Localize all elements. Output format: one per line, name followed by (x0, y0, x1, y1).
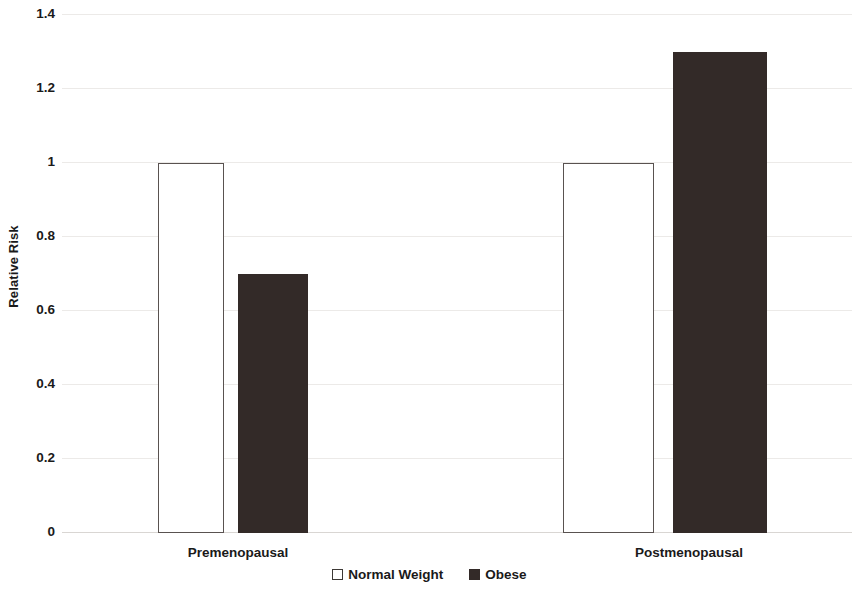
bar-postmenopausal-obese (673, 52, 767, 533)
legend-item-obese[interactable]: Obese (469, 567, 526, 582)
y-tick-label: 1.4 (7, 7, 55, 21)
y-axis-tick-labels: 1.4 1.2 1 0.8 0.6 0.4 0.2 0 (0, 14, 55, 533)
bar-premenopausal-obese (238, 274, 308, 533)
legend-label-normal-weight: Normal Weight (348, 567, 443, 582)
gridline (62, 14, 852, 15)
x-axis-category-label-premenopausal: Premenopausal (148, 545, 328, 560)
relative-risk-bar-chart: Relative Risk 1.4 1.2 1 0.8 0.6 0.4 0.2 … (0, 0, 859, 597)
y-tick-label: 0 (7, 525, 55, 539)
y-tick-label: 0.2 (7, 451, 55, 465)
legend-swatch-obese-icon (469, 569, 480, 580)
y-tick-label: 1.2 (7, 81, 55, 95)
x-axis-category-label-postmenopausal: Postmenopausal (594, 545, 784, 560)
legend-swatch-normal-weight-icon (332, 569, 343, 580)
y-tick-label: 1 (7, 155, 55, 169)
legend: Normal Weight Obese (0, 567, 859, 582)
legend-label-obese: Obese (485, 567, 526, 582)
y-tick-label: 0.6 (7, 303, 55, 317)
y-tick-label: 0.8 (7, 229, 55, 243)
legend-item-normal-weight[interactable]: Normal Weight (332, 567, 443, 582)
bar-premenopausal-normal-weight (158, 163, 224, 533)
plot-area (62, 14, 852, 533)
y-tick-label: 0.4 (7, 377, 55, 391)
bar-postmenopausal-normal-weight (563, 163, 654, 533)
